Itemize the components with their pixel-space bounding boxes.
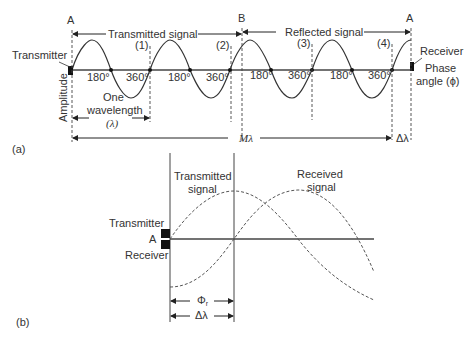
- received-label-1: Received: [297, 168, 343, 180]
- point-a-b: A: [149, 233, 157, 245]
- marker-3: (3): [297, 37, 310, 49]
- point-b: B: [238, 12, 245, 24]
- received-label-2: signal: [307, 181, 336, 193]
- receiver-block-b: [161, 240, 170, 249]
- receiver-label-b: Receiver: [125, 249, 169, 261]
- panel-a-label: (a): [12, 143, 25, 155]
- point-a-left: A: [67, 14, 75, 26]
- svg-text:180°: 180°: [250, 69, 273, 81]
- svg-text:360°: 360°: [288, 69, 311, 81]
- svg-text:180°: 180°: [330, 69, 353, 81]
- svg-text:360°: 360°: [206, 71, 229, 83]
- transmitted-label-b-1: Transmitted: [174, 170, 232, 182]
- transmitter-label: Transmitter: [12, 49, 68, 61]
- svg-text:180°: 180°: [87, 71, 110, 83]
- phi-r-label: Φr: [197, 294, 209, 307]
- transmitted-signal-curve: [170, 191, 374, 300]
- delta-lambda-label-a: Δλ: [396, 132, 409, 144]
- delta-lambda-label-b: Δλ: [195, 309, 208, 321]
- amplitude-label: Amplitude: [57, 73, 69, 122]
- phase-label: Phase: [425, 62, 456, 74]
- panel-b-label: (b): [16, 316, 29, 328]
- phase-angle-label: angle (ϕ): [416, 75, 459, 87]
- signal-wave: [72, 40, 411, 98]
- wavelength-line-2: wavelength: [86, 104, 143, 116]
- transmitter-block-b: [161, 229, 170, 238]
- panel-b: Transmitted signal Received signal Trans…: [16, 153, 374, 328]
- marker-1: (1): [135, 39, 148, 51]
- angle-labels: 180° 360° 180° 360° 180° 360° 180° 360°: [87, 69, 391, 83]
- point-a-right: A: [406, 12, 414, 24]
- marker-2: (2): [216, 39, 229, 51]
- wavelength-symbol: (λ): [106, 117, 118, 130]
- panel-a: A B A Transmitted signal Reflected signa…: [12, 12, 464, 155]
- transmitted-label-b-2: signal: [188, 183, 217, 195]
- marker-4: (4): [377, 37, 390, 49]
- m-lambda-label: Mλ: [238, 132, 253, 144]
- receiver-label: Receiver: [420, 45, 464, 57]
- transmitter-label-b: Transmitter: [109, 217, 165, 229]
- dashed-markers: [72, 28, 411, 142]
- transmitted-signal-label: Transmitted signal: [108, 28, 197, 40]
- svg-text:360°: 360°: [368, 69, 391, 81]
- phase-measurement-diagram: A B A Transmitted signal Reflected signa…: [0, 0, 470, 339]
- svg-text:360°: 360°: [126, 71, 149, 83]
- svg-text:180°: 180°: [168, 71, 191, 83]
- wavelength-line-1: One: [103, 91, 124, 103]
